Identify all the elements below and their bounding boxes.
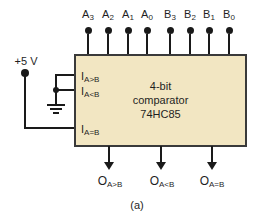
chip-title: 4-bit comparator 74HC85 <box>76 79 245 121</box>
wire-segment <box>189 34 191 55</box>
comparator-chip-body: 4-bit comparator 74HC85 IA>B IA<B IA=B <box>74 54 247 147</box>
chip-title-line3: 74HC85 <box>76 107 245 121</box>
terminal-dot <box>85 27 92 34</box>
pin-a2: A2 <box>97 8 119 55</box>
arrow-down-icon <box>156 162 166 170</box>
wire-segment <box>127 34 129 55</box>
wire-segment <box>146 34 148 55</box>
pin-b3-label: B3 <box>164 8 176 22</box>
output-a-gt-b-label: OA>B <box>98 174 123 189</box>
wire-segment <box>24 127 74 129</box>
pin-a0: A0 <box>136 8 158 55</box>
wire-segment <box>160 146 162 163</box>
arrow-down-icon <box>207 162 217 170</box>
terminal-dot <box>187 27 194 34</box>
wire-segment <box>211 146 213 163</box>
pin-b3: B3 <box>159 8 181 55</box>
wire-segment <box>55 74 74 76</box>
supply-voltage-label: +5 V <box>8 55 44 67</box>
pin-b1: B1 <box>198 8 220 55</box>
pin-a0-label: A0 <box>141 8 153 22</box>
arrow-down-icon <box>104 162 114 170</box>
terminal-dot <box>167 27 174 34</box>
terminal-dot <box>125 27 132 34</box>
output-a-lt-b-label: OA<B <box>150 174 175 189</box>
pin-b0-label: B0 <box>223 8 235 22</box>
junction-dot <box>53 87 59 93</box>
wire-segment <box>108 146 110 163</box>
wire-segment <box>87 34 89 55</box>
pin-b0: B0 <box>218 8 240 55</box>
pin-a1-label: A1 <box>122 8 134 22</box>
terminal-dot <box>144 27 151 34</box>
wire-segment <box>208 34 210 55</box>
terminal-dot <box>105 27 112 34</box>
output-a-eq-b-label: OA=B <box>200 174 225 189</box>
terminal-dot <box>226 27 233 34</box>
pin-a2-label: A2 <box>102 8 114 22</box>
wire-segment <box>169 34 171 55</box>
ground-icon <box>50 108 62 110</box>
wire-segment <box>24 76 26 129</box>
cascade-input-a-gt-b-label: IA>B <box>81 70 99 84</box>
wire-segment <box>107 34 109 55</box>
figure-caption: (a) <box>117 199 157 211</box>
ground-icon <box>47 104 65 106</box>
comparator-circuit-diagram: A3 A2 A1 A0 B3 B2 B1 B0 4-bit <box>0 0 261 224</box>
pin-b1-label: B1 <box>203 8 215 22</box>
pin-a3-label: A3 <box>82 8 94 22</box>
terminal-dot <box>206 27 213 34</box>
cascade-input-a-lt-b-label: IA<B <box>81 85 99 99</box>
chip-title-line1: 4-bit <box>76 79 245 93</box>
wire-segment <box>228 34 230 55</box>
pin-b2-label: B2 <box>184 8 196 22</box>
pin-a3: A3 <box>77 8 99 55</box>
cascade-input-a-eq-b-label: IA=B <box>81 123 99 137</box>
ground-icon <box>53 112 59 114</box>
chip-title-line2: comparator <box>76 93 245 107</box>
